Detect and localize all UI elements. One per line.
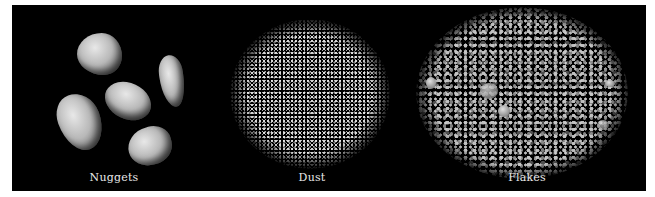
nugget-1 [77,33,122,75]
flakes-label: Flakes [508,171,546,184]
flake-large-3 [498,105,510,117]
dust-pile [230,19,390,169]
flake-large-2 [480,83,498,99]
nugget-2 [156,54,187,109]
flake-large-4 [605,80,615,87]
nugget-3 [99,75,158,128]
flake-large-5 [597,120,609,130]
nuggets-label: Nuggets [90,171,139,184]
photo-panel: Nuggets Dust Flakes [12,5,646,191]
flake-large-1 [426,77,436,89]
flakes-pile [416,7,628,179]
nugget-5 [124,122,176,170]
nugget-4 [50,88,109,157]
dust-label: Dust [299,171,326,184]
